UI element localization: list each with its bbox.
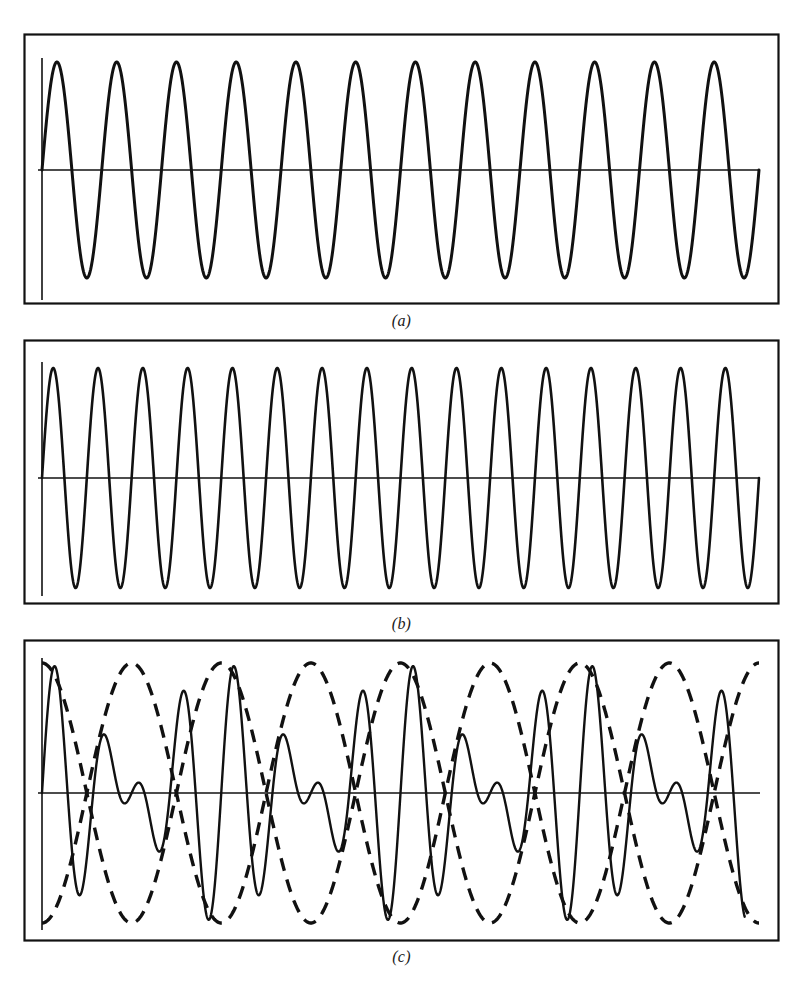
- panel-c-chart: [0, 630, 803, 945]
- panel-a: (a): [0, 20, 803, 330]
- panel-c: (c): [0, 630, 803, 985]
- panel-a-chart: [0, 20, 803, 305]
- panel-c-caption: (c): [0, 948, 803, 966]
- panel-a-caption: (a): [0, 312, 803, 330]
- panel-b-chart: [0, 330, 803, 608]
- panel-b: (b): [0, 330, 803, 630]
- beats-figure: (a) (b) (c): [0, 0, 803, 985]
